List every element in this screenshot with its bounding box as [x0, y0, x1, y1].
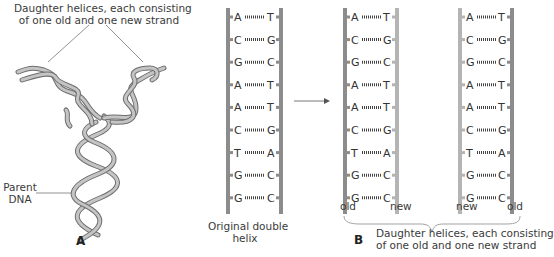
base-right: T: [266, 11, 274, 24]
base-right: G: [498, 124, 507, 137]
d1-right-strand-label: new: [390, 200, 412, 212]
base-left: C: [466, 34, 474, 47]
base-right: G: [383, 34, 392, 47]
base-left: A: [234, 79, 242, 92]
panel-b-letter: B: [354, 233, 363, 247]
daughter-helix-1: ATCGGCATATCGTAGCGC: [343, 8, 399, 214]
base-right: G: [267, 124, 276, 137]
base-left: T: [465, 147, 473, 160]
base-left: A: [466, 101, 474, 114]
base-left: A: [351, 11, 359, 24]
base-right: C: [383, 56, 391, 69]
base-left: C: [351, 34, 359, 47]
base-left: A: [466, 79, 474, 92]
caption-line-1: Daughter helices, each consisting: [376, 227, 536, 239]
daughter-helix-2: ATCGGCATATCGTAGCGC: [458, 8, 514, 214]
backbone-right: [395, 8, 399, 214]
base-right: T: [497, 101, 505, 114]
base-right: A: [498, 147, 506, 160]
panel-b-caption: Daughter helices, each consisting of one…: [376, 227, 536, 251]
base-left: G: [234, 192, 243, 205]
original-helix: ATCGGCATATCGTAGCGC: [226, 8, 283, 214]
backbone-right: [510, 8, 514, 214]
base-right: T: [382, 11, 390, 24]
base-right: A: [267, 147, 275, 160]
original-helix-label: Original double helix: [208, 220, 282, 244]
original-label-line-1: Original double: [208, 220, 282, 232]
base-left: G: [466, 169, 475, 182]
base-right: T: [382, 79, 390, 92]
base-left: C: [234, 34, 242, 47]
base-right: C: [383, 169, 391, 182]
base-left: G: [466, 56, 475, 69]
base-right: T: [497, 11, 505, 24]
base-right: T: [266, 79, 274, 92]
base-left: A: [466, 11, 474, 24]
base-right: T: [497, 79, 505, 92]
base-right: C: [498, 169, 506, 182]
base-left: T: [233, 147, 241, 160]
base-left: C: [351, 124, 359, 137]
backbone-left: [458, 8, 462, 214]
base-left: G: [234, 169, 243, 182]
d2-right-strand-label: old: [507, 200, 523, 212]
base-left: G: [234, 56, 243, 69]
caption-line-2: of one old and one new strand: [376, 239, 536, 251]
base-right: T: [382, 101, 390, 114]
d1-left-strand-label: old: [340, 200, 356, 212]
base-left: G: [351, 56, 360, 69]
base-left: T: [350, 147, 358, 160]
base-left: C: [234, 124, 242, 137]
base-left: A: [351, 79, 359, 92]
backbone-left: [226, 8, 230, 214]
original-label-line-2: helix: [208, 232, 282, 244]
base-left: A: [351, 101, 359, 114]
base-right: C: [267, 169, 275, 182]
arrowhead-icon: [324, 98, 330, 104]
base-left: C: [466, 124, 474, 137]
base-right: G: [498, 34, 507, 47]
base-right: C: [267, 192, 275, 205]
backbone-left: [343, 8, 347, 214]
base-right: T: [266, 101, 274, 114]
d2-left-strand-label: new: [456, 200, 478, 212]
base-right: C: [498, 192, 506, 205]
base-left: A: [234, 11, 242, 24]
base-right: G: [383, 124, 392, 137]
base-right: G: [267, 34, 276, 47]
base-right: C: [498, 56, 506, 69]
base-left: G: [351, 169, 360, 182]
base-left: A: [234, 101, 242, 114]
base-right: A: [383, 147, 391, 160]
base-right: C: [267, 56, 275, 69]
backbone-right: [279, 8, 283, 214]
